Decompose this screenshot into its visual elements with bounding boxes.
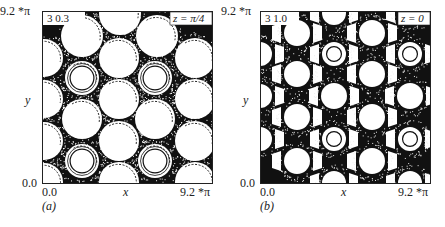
panel-a-x-min-label: 0.0 bbox=[42, 186, 57, 198]
panel-b-y-min-label: 0.0 bbox=[240, 177, 255, 189]
panel-a-caption: (a) bbox=[42, 200, 56, 212]
panel-a-y-max-label: 9.2 *π bbox=[0, 5, 30, 17]
panel-b-y-max-label: 9.2 *π bbox=[221, 5, 251, 17]
parameter-label: 3 1.0 bbox=[265, 12, 288, 24]
z-value-label: z = π/4 bbox=[172, 12, 205, 24]
panel-b-x-axis-label: x bbox=[341, 186, 346, 198]
z-value-label: z = 0 bbox=[400, 12, 424, 24]
panel-b-caption: (b) bbox=[260, 200, 274, 212]
panel-b-x-min-label: 0.0 bbox=[260, 186, 275, 198]
panel-a-x-max-label: 9.2 *π bbox=[180, 186, 210, 198]
panel-a-y-min-label: 0.0 bbox=[22, 177, 37, 189]
panel-b-plot: 3 1.0z = 0 bbox=[260, 11, 431, 184]
parameter-label: 3 0.3 bbox=[47, 12, 70, 24]
island-pattern bbox=[260, 11, 431, 184]
panel-b-x-max-label: 9.2 *π bbox=[398, 186, 428, 198]
island-pattern bbox=[42, 11, 213, 184]
panel-a-x-axis-label: x bbox=[123, 186, 128, 198]
panel-a-plot: 3 0.3z = π/4 bbox=[42, 11, 213, 184]
panel-a-y-axis-label: y bbox=[25, 94, 30, 106]
panel-b-y-axis-label: y bbox=[243, 94, 248, 106]
